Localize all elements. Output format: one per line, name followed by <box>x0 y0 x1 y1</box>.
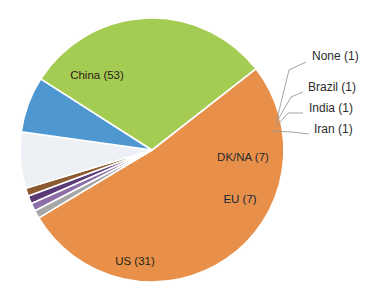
callout-label-india: India (1) <box>309 101 353 115</box>
pie-chart-svg: China (53)None (1)Brazil (1)India (1)Ira… <box>0 0 373 290</box>
callout-label-iran: Iran (1) <box>314 122 353 136</box>
leader-line-none <box>277 62 306 119</box>
callout-label-brazil: Brazil (1) <box>308 80 356 94</box>
slice-label-china: China (53) <box>70 69 124 81</box>
slice-label-eu: EU (7) <box>223 193 256 205</box>
callout-label-none: None (1) <box>312 49 359 63</box>
pie-chart: China (53)None (1)Brazil (1)India (1)Ira… <box>0 0 373 290</box>
slice-label-dk-na: DK/NA (7) <box>217 151 269 163</box>
pie-slices <box>20 18 284 282</box>
slice-label-us: US (31) <box>115 255 155 267</box>
